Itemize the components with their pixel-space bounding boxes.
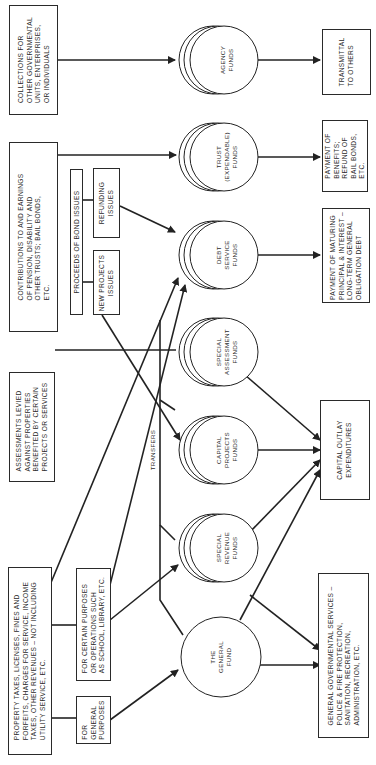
certain-purposes-text: FOR CERTAIN PURPOSES OR OPERATIONS SUCH …	[81, 576, 107, 672]
assessments-box: ASSESSMENTS LEVIED AGAINST PROPERTIES BE…	[9, 372, 55, 482]
special-revenue-funds-label: SPECIAL REVENUE FUNDS	[215, 532, 239, 564]
agency-funds-label: AGENCY FUNDS	[219, 46, 235, 74]
fund-flow-diagram: COLLECTIONS FOR OTHER GOVERNMENTAL UNITS…	[0, 0, 376, 765]
maturing-debt-text: PAYMENT OF MATURING PRINCIPAL & INTEREST…	[329, 212, 363, 300]
general-services-box: GENERAL GOVERNMENTAL SERVICES – POLICE &…	[318, 573, 369, 738]
collections-box: COLLECTIONS FOR OTHER GOVERNMENTAL UNITS…	[9, 5, 58, 115]
general-purposes-text: FOR GENERAL PURPOSES	[81, 700, 107, 739]
transfers-label: TRANSFERS	[149, 430, 157, 471]
transmittal-box: TRANSMITTAL TO OTHERS	[322, 29, 371, 95]
bond-proceeds-text: PROCEEDS OF BOND ISSUES	[72, 191, 81, 294]
general-purposes-box: FOR GENERAL PURPOSES	[76, 696, 111, 744]
capital-projects-funds-label: CAPITAL PROJECTS FUNDS	[215, 432, 239, 468]
general-services-text: GENERAL GOVERNMENTAL SERVICES – POLICE &…	[326, 586, 360, 725]
transmittal-text: TRANSMITTAL TO OTHERS	[338, 37, 355, 86]
general-fund-label: THE GENERAL FUND	[209, 641, 233, 673]
benefits-box: PAYMENT OF BENEFITS; REFUND OF BAIL BOND…	[322, 120, 368, 192]
certain-purposes-box: FOR CERTAIN PURPOSES OR OPERATIONS SUCH …	[76, 568, 111, 681]
bond-proceeds-box: PROCEEDS OF BOND ISSUES	[70, 169, 83, 315]
capital-outlay-text: CAPITAL OUTLAY EXPENDITURES	[336, 420, 353, 479]
property-taxes-text: PROPERTY TAXES, LICENSES, FINES AND FORF…	[13, 582, 47, 740]
contributions-box: CONTRIBUTIONS TO AND EARNINGS OF PENSION…	[9, 142, 58, 332]
debt-service-funds-label: DEBT SERVICE FUNDS	[215, 240, 239, 270]
refunding-issues-text: REFUNDING ISSUES	[98, 182, 115, 224]
contributions-text: CONTRIBUTIONS TO AND EARNINGS OF PENSION…	[16, 173, 50, 300]
capital-outlay-box: CAPITAL OUTLAY EXPENDITURES	[320, 400, 370, 500]
new-projects-issues-text: NEW PROJECTS ISSUES	[98, 254, 115, 311]
refunding-issues-box: REFUNDING ISSUES	[93, 168, 120, 238]
property-taxes-box: PROPERTY TAXES, LICENSES, FINES AND FORF…	[8, 567, 52, 755]
maturing-debt-box: PAYMENT OF MATURING PRINCIPAL & INTEREST…	[322, 208, 370, 303]
new-projects-issues-box: NEW PROJECTS ISSUES	[93, 250, 120, 315]
collections-text: COLLECTIONS FOR OTHER GOVERNMENTAL UNITS…	[16, 17, 50, 103]
benefits-text: PAYMENT OF BENEFITS; REFUND OF BAIL BOND…	[324, 133, 367, 178]
trust-funds-label: TRUST (EXPENDABLE) FUNDS	[215, 132, 239, 182]
special-assessment-funds-label: SPECIAL ASSESSMENT FUNDS	[215, 329, 239, 375]
assessments-text: ASSESSMENTS LEVIED AGAINST PROPERTIES BE…	[15, 383, 49, 472]
